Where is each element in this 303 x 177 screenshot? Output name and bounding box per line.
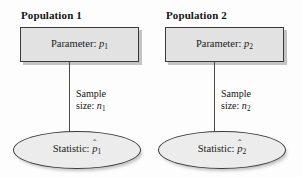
statistic-hat-accent-1: ˆ: [93, 139, 96, 149]
statistic-label-2: Statistic: ˆp2: [198, 144, 247, 156]
parameter-label-text-1: Parameter:: [51, 38, 96, 49]
sample-size-line2-1: size: n1: [76, 100, 106, 115]
statistic-label-1: Statistic: ˆp1: [53, 144, 102, 156]
sample-size-subscript-2: 2: [247, 105, 251, 113]
statistic-subscript-1: 1: [97, 147, 101, 156]
sample-size-line1-2: Sample: [221, 88, 251, 100]
statistic-label-text-1: Statistic:: [53, 143, 90, 154]
sample-size-label-1: Sample size: n1: [76, 88, 106, 115]
parameter-subscript-2: 2: [249, 42, 253, 51]
parameter-label-2: Parameter: p2: [196, 39, 253, 51]
population-title-2: Population 2: [166, 9, 227, 21]
parameter-box-2: Parameter: p2: [165, 27, 284, 62]
connector-line-1: [69, 62, 70, 139]
sample-size-label-2: Sample size: n2: [221, 88, 251, 115]
statistic-hat-accent-2: ˆ: [238, 139, 241, 149]
diagram-canvas: Population 1 Parameter: p1 Sample size: …: [0, 0, 303, 177]
statistic-symbol-wrap-1: ˆp: [92, 144, 97, 155]
parameter-label-1: Parameter: p1: [51, 39, 108, 51]
statistic-subscript-2: 2: [242, 147, 246, 156]
statistic-ellipse-1: Statistic: ˆp1: [13, 131, 141, 169]
statistic-symbol-wrap-2: ˆp: [237, 144, 242, 155]
population-group-1: Population 1 Parameter: p1 Sample size: …: [8, 0, 148, 177]
sample-size-line2-label-1: size:: [76, 100, 94, 111]
sample-size-line2-label-2: size:: [221, 100, 239, 111]
parameter-subscript-1: 1: [104, 42, 108, 51]
statistic-ellipse-2: Statistic: ˆp2: [158, 131, 286, 169]
connector-line-2: [214, 62, 215, 139]
population-title-1: Population 1: [21, 9, 82, 21]
statistic-label-text-2: Statistic:: [198, 143, 235, 154]
sample-size-subscript-1: 1: [102, 105, 106, 113]
population-group-2: Population 2 Parameter: p2 Sample size: …: [153, 0, 293, 177]
parameter-box-1: Parameter: p1: [20, 27, 139, 62]
sample-size-line1-1: Sample: [76, 88, 106, 100]
parameter-label-text-2: Parameter:: [196, 38, 241, 49]
sample-size-line2-2: size: n2: [221, 100, 251, 115]
